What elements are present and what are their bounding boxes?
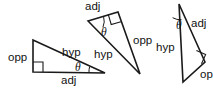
triangle-1-adjacent-label: adj — [61, 74, 76, 86]
triangle-1-angle-arc-icon — [89, 67, 90, 73]
triangle-3-hypotenuse-label: hyp — [156, 41, 175, 53]
triangle-2-adjacent-label: adj — [85, 0, 100, 12]
diagram-canvas: opp adj hyp θ adj opp hyp θ adj — [0, 0, 213, 98]
triangle-1-opposite-label: opp — [8, 51, 27, 63]
trigonometry-triangles-diagram: opp adj hyp θ adj opp hyp θ adj — [0, 0, 213, 98]
triangle-3-opposite-label: op — [200, 68, 213, 80]
triangle-2-group: adj opp hyp θ — [85, 0, 152, 74]
triangle-2-opposite-label: opp — [133, 34, 152, 46]
triangle-2-hypotenuse-label: hyp — [94, 48, 113, 60]
triangle-3-group: adj hyp op θ — [156, 4, 213, 82]
triangle-1-hypotenuse-label: hyp — [62, 46, 81, 58]
triangle-1-group: opp adj hyp θ — [8, 40, 105, 86]
triangle-3-adjacent-label: adj — [191, 17, 206, 29]
triangle-1-right-angle-icon — [33, 62, 43, 72]
triangle-3-theta-label: θ — [176, 19, 182, 31]
triangle-2-theta-label: θ — [101, 26, 107, 38]
triangle-1-theta-label: θ — [75, 61, 81, 73]
